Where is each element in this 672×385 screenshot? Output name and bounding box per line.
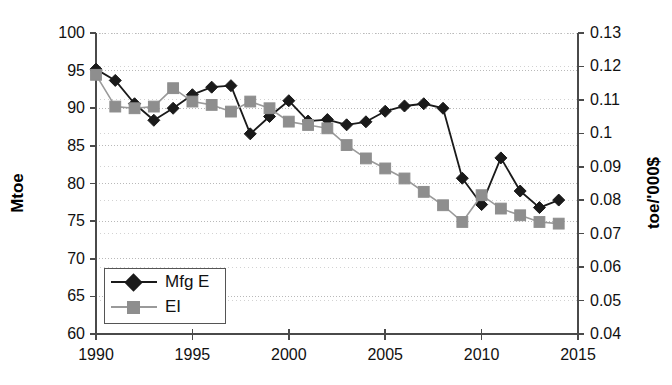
- y2-axis-tick-label: 0.1: [590, 124, 612, 142]
- data-point-square: [110, 101, 121, 112]
- chart-legend: Mfg E EI: [104, 268, 226, 324]
- y2-axis-tick-label: 0.04: [590, 325, 621, 343]
- data-point-square: [438, 200, 449, 211]
- x-axis-tick-label: 2000: [271, 346, 307, 364]
- data-point-square: [303, 120, 314, 131]
- data-point-square: [418, 186, 429, 197]
- data-point-square: [515, 210, 526, 221]
- data-point-square: [361, 153, 372, 164]
- data-point-diamond: [379, 105, 391, 117]
- data-point-diamond: [553, 194, 565, 206]
- data-point-square: [341, 140, 352, 151]
- data-point-square: [495, 203, 506, 214]
- x-axis-tick-label: 2015: [560, 346, 596, 364]
- chart-container: Mtoe toe/'000$ 60657075808590951000.040.…: [0, 0, 672, 385]
- data-point-square: [168, 83, 179, 94]
- legend-label-mfg-e: Mfg E: [157, 272, 209, 292]
- series-line-mfg-e: [96, 69, 559, 207]
- y2-axis-tick-label: 0.12: [590, 57, 621, 75]
- data-point-square: [148, 101, 159, 112]
- y-axis-tick-label: 90: [67, 99, 85, 117]
- y-axis-tick-label: 60: [67, 325, 85, 343]
- data-point-square: [534, 217, 545, 228]
- legend-item-1: EI: [105, 294, 225, 319]
- data-point-diamond: [437, 102, 449, 114]
- data-point-square: [322, 123, 333, 134]
- data-point-diamond: [418, 98, 430, 110]
- data-point-square: [264, 103, 275, 114]
- data-point-diamond: [225, 80, 237, 92]
- data-point-square: [129, 103, 140, 114]
- y2-axis-tick-label: 0.05: [590, 292, 621, 310]
- data-point-square: [283, 116, 294, 127]
- y2-axis-tick-label: 0.06: [590, 258, 621, 276]
- y-axis-tick-label: 85: [67, 137, 85, 155]
- y-axis-tick-label: 95: [67, 62, 85, 80]
- square-marker-icon: [127, 301, 140, 314]
- y-axis-tick-label: 80: [67, 175, 85, 193]
- legend-symbol-ei: [111, 298, 157, 316]
- y-axis-tick-label: 75: [67, 212, 85, 230]
- data-point-diamond: [206, 81, 218, 93]
- data-point-square: [380, 163, 391, 174]
- data-point-square: [399, 173, 410, 184]
- y2-axis-tick-label: 0.09: [590, 158, 621, 176]
- data-point-diamond: [495, 152, 507, 164]
- data-point-square: [457, 217, 468, 228]
- data-point-diamond: [360, 116, 372, 128]
- plot-area: [0, 0, 672, 385]
- x-axis-tick-label: 1990: [78, 346, 114, 364]
- y2-axis-tick-label: 0.11: [590, 91, 620, 109]
- y2-axis-tick-label: 0.08: [590, 191, 621, 209]
- data-point-diamond: [167, 102, 179, 114]
- data-point-square: [187, 96, 198, 107]
- legend-symbol-mfg-e: [111, 273, 157, 291]
- data-point-square: [245, 96, 256, 107]
- y-axis-tick-label: 70: [67, 250, 85, 268]
- legend-label-ei: EI: [157, 297, 181, 317]
- y2-axis-tick-label: 0.13: [590, 24, 621, 42]
- legend-item-0: Mfg E: [105, 269, 225, 294]
- x-axis-tick-label: 2010: [464, 346, 500, 364]
- data-point-diamond: [341, 119, 353, 131]
- data-point-square: [206, 100, 217, 111]
- data-point-square: [553, 218, 564, 229]
- data-point-square: [226, 106, 237, 117]
- data-point-diamond: [456, 172, 468, 184]
- diamond-marker-icon: [124, 273, 142, 291]
- x-axis-tick-label: 2005: [367, 346, 403, 364]
- y-axis-tick-label: 65: [67, 287, 85, 305]
- x-axis-tick-label: 1995: [175, 346, 211, 364]
- data-point-diamond: [398, 100, 410, 112]
- series-line-ei: [96, 75, 559, 224]
- y2-axis-tick-label: 0.07: [590, 225, 621, 243]
- data-point-square: [91, 69, 102, 80]
- y-axis-tick-label: 100: [58, 24, 85, 42]
- data-point-square: [476, 190, 487, 201]
